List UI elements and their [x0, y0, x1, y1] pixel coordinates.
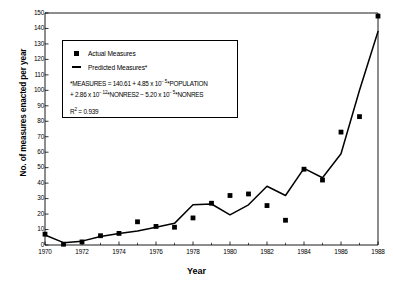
r-squared-annotation: R2 = 0.939 [70, 107, 230, 115]
legend-box: Actual Measures Predicted Measures* *MEA… [62, 40, 238, 118]
x-tick-label: 1974 [102, 249, 136, 255]
x-tick-label: 1970 [28, 249, 62, 255]
r-squared-value: = 0.939 [77, 108, 99, 115]
x-tick-label: 1986 [324, 249, 358, 255]
x-tick-label: 1972 [65, 249, 99, 255]
legend-label-actual: Actual Measures [88, 50, 136, 57]
x-tick-label: 1988 [361, 249, 393, 255]
x-axis-title: Year [0, 266, 393, 276]
equation-line-2: + 2.86 x 10− 12*NONRES2 − 5.20 x 10− 5*N… [70, 89, 230, 100]
x-tick-label: 1978 [176, 249, 210, 255]
equation-line-1: *MEASURES = 140.61 + 4.85 x 10− 5*POPULA… [70, 78, 230, 89]
square-marker-icon [74, 51, 79, 56]
x-tick-label: 1984 [287, 249, 321, 255]
equation-line-1-pre: *MEASURES = 140.61 + 4.85 x 10 [70, 80, 161, 87]
equation-line-2-mid: *NONRES2 − 5.20 x 10 [107, 91, 169, 98]
legend-item-actual: Actual Measures [70, 47, 230, 59]
x-tick-label: 1976 [139, 249, 173, 255]
legend-item-predicted: Predicted Measures* [70, 61, 230, 73]
legend-label-predicted: Predicted Measures* [88, 64, 147, 71]
chart-figure: No. of measures enacted per year 0102030… [0, 0, 393, 285]
equation-line-1-post: *POPULATION [167, 80, 207, 87]
x-tick-label: 1980 [213, 249, 247, 255]
equation-line-2-pre: + 2.86 x 10 [70, 91, 99, 98]
x-tick-label: 1982 [250, 249, 284, 255]
equation-line-2-post: *NONRES [175, 91, 203, 98]
line-marker-icon [72, 66, 81, 68]
equation-annotation: *MEASURES = 140.61 + 4.85 x 10− 5*POPULA… [70, 78, 230, 99]
